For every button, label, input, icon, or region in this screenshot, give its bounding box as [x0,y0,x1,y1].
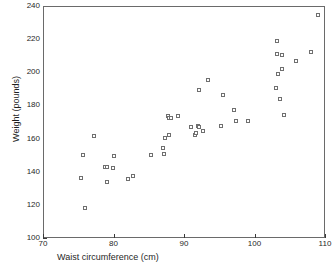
data-point [219,124,223,128]
data-point [275,39,279,43]
data-point [81,153,85,157]
data-point [112,154,116,158]
x-axis-tick [255,234,256,238]
data-point [309,50,313,54]
x-axis-tick-label: 70 [39,240,48,248]
data-point [161,146,165,150]
scatter-chart-figure: Weight (pounds) 100120140160180200220240… [0,0,336,273]
data-point [278,97,282,101]
data-point [316,13,320,17]
data-point [221,93,225,97]
data-point [276,72,280,76]
data-point [131,174,135,178]
data-point [246,119,250,123]
data-point [92,134,96,138]
x-axis-tick [184,234,185,238]
data-point [149,153,153,157]
y-axis-tick-label: 140 [27,168,40,176]
y-axis-tick-label: 200 [27,68,40,76]
data-point [282,113,286,117]
data-point [201,129,205,133]
y-axis-tick-label: 120 [27,201,40,209]
data-point [197,88,201,92]
y-axis-tick-label: 160 [27,135,40,143]
x-axis-tick-label: 80 [109,240,118,248]
data-point [194,131,198,135]
data-point [294,59,298,63]
data-point [234,119,238,123]
data-point [189,125,193,129]
y-axis-tick-label: 220 [27,35,40,43]
data-point [274,86,278,90]
x-axis-tick-label: 90 [180,240,189,248]
data-point [232,108,236,112]
data-point [79,176,83,180]
data-point [275,52,279,56]
data-point [105,180,109,184]
x-axis-label: Waist circumference (cm) [43,252,325,262]
data-point [206,78,210,82]
data-point [83,206,87,210]
data-point [162,152,166,156]
data-point [280,53,284,57]
x-axis-tick [325,234,326,238]
data-point [280,67,284,71]
data-point [105,165,109,169]
y-axis-tick-label: 180 [27,101,40,109]
x-axis-tick [114,234,115,238]
x-axis-tick-label: 110 [319,240,332,248]
y-axis-label: Weight (pounds) [11,49,21,169]
plot-area [43,6,325,238]
x-axis-tick-label: 100 [248,240,261,248]
y-axis-tick-label: 240 [27,2,40,10]
x-axis-tick [43,234,44,238]
data-point [111,166,115,170]
data-point [126,177,130,181]
data-point [176,114,180,118]
data-point [167,133,171,137]
data-point [169,116,173,120]
